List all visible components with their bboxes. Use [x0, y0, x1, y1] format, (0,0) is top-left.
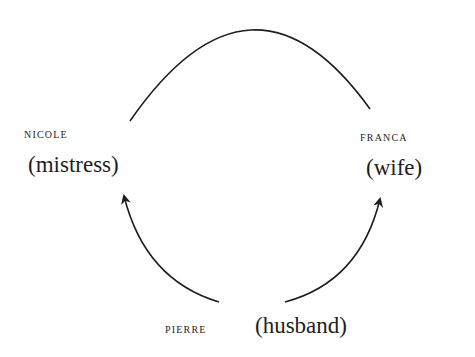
node-pierre-name: PIERRE	[165, 321, 207, 337]
node-pierre-role: (husband)	[255, 313, 347, 339]
arrow-pierre-to-franca	[285, 199, 380, 302]
node-nicole-name: NICOLE	[24, 126, 68, 142]
node-nicole-role: (mistress)	[28, 152, 119, 178]
node-franca-role: (wife)	[366, 155, 422, 181]
arc-nicole-franca	[130, 30, 370, 121]
node-franca-name: FRANCA	[360, 129, 408, 145]
arrow-pierre-to-nicole	[124, 196, 219, 302]
